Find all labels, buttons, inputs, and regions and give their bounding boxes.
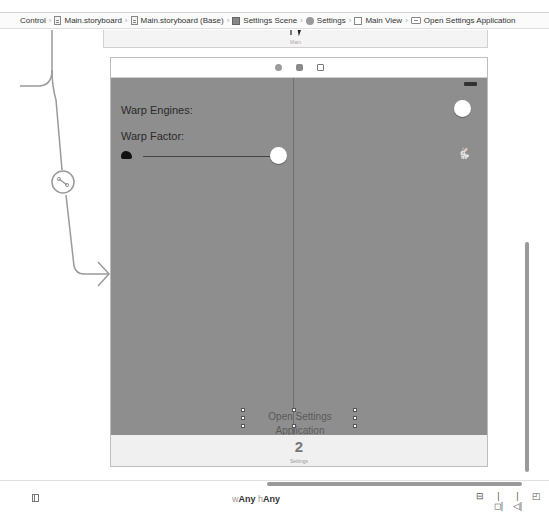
layout-tools: ⊟ |◻| |◁| ◰ <box>474 491 542 501</box>
breadcrumb-item-main-storyboard-base[interactable]: Main.storyboard (Base) <box>131 16 224 25</box>
width-value: Any <box>239 494 256 504</box>
chevron-right-icon: › <box>349 16 352 25</box>
document-outline-toggle-icon[interactable] <box>32 494 39 502</box>
scene-handle <box>290 30 292 35</box>
resolve-issues-icon[interactable]: |◁| <box>512 491 523 501</box>
breadcrumb-label: Main.storyboard <box>64 16 121 25</box>
chevron-right-icon: › <box>125 16 128 25</box>
warp-factor-slider[interactable] <box>143 156 275 157</box>
breadcrumb-item-main-storyboard[interactable]: Main.storyboard <box>54 16 121 25</box>
resizing-behavior-icon[interactable]: ◰ <box>531 491 542 501</box>
scene-dock <box>111 58 487 78</box>
resize-handle[interactable] <box>241 408 245 412</box>
tortoise-icon <box>121 151 132 159</box>
button-icon <box>411 17 421 24</box>
chevron-right-icon: › <box>405 16 408 25</box>
breadcrumb-label: Main View <box>365 16 402 25</box>
tab-bar-item-label: Settings <box>111 458 487 464</box>
first-responder-icon[interactable] <box>296 64 303 71</box>
resize-handle[interactable] <box>353 424 357 428</box>
chevron-right-icon: › <box>227 16 230 25</box>
warp-engines-label[interactable]: Warp Engines: <box>121 104 193 116</box>
breadcrumb-label: Open Settings Application <box>424 16 516 25</box>
size-class-control[interactable]: wAny hAny <box>232 494 280 504</box>
tab-bar-item-icon: 2 <box>111 438 487 455</box>
resize-handle[interactable] <box>292 424 296 428</box>
main-view[interactable]: Warp Engines: Warp Factor: 🐇 Open Settin… <box>111 78 487 435</box>
height-value: Any <box>263 494 280 504</box>
breadcrumb-label: Control <box>20 16 46 25</box>
breadcrumb-label: Main.storyboard (Base) <box>141 16 224 25</box>
view-icon <box>354 17 362 25</box>
vertical-scrollbar[interactable] <box>525 242 529 472</box>
scene-icon <box>232 17 240 25</box>
pin-icon[interactable]: |◻| <box>493 491 504 501</box>
horizontal-scroll-track <box>0 480 549 481</box>
warp-engines-switch[interactable] <box>454 100 471 117</box>
hare-icon: 🐇 <box>457 148 471 159</box>
warp-factor-label[interactable]: Warp Factor: <box>121 130 184 142</box>
open-settings-application-button[interactable]: Open Settings Application <box>244 410 356 424</box>
breadcrumb-item-control[interactable]: Control <box>20 16 46 25</box>
center-guide-line <box>293 78 294 435</box>
view-controller-icon[interactable] <box>275 64 282 71</box>
storyboard-icon <box>54 16 61 25</box>
tab-bar[interactable]: 2 Settings <box>111 435 487 466</box>
scene-label: Main <box>104 39 487 45</box>
breadcrumb-item-settings[interactable]: Settings <box>306 16 346 25</box>
battery-icon <box>464 82 477 86</box>
breadcrumb-item-main-view[interactable]: Main View <box>354 16 402 25</box>
exit-icon[interactable] <box>317 64 324 71</box>
resize-handle[interactable] <box>353 416 357 420</box>
breadcrumb-label: Settings Scene <box>243 16 297 25</box>
canvas-bottom-bar: wAny hAny ⊟ |◻| |◁| ◰ <box>0 486 549 521</box>
breadcrumb: Control › Main.storyboard › Main.storybo… <box>0 12 549 29</box>
breadcrumb-item-settings-scene[interactable]: Settings Scene <box>232 16 297 25</box>
slider-thumb[interactable] <box>270 147 287 164</box>
settings-scene[interactable]: Warp Engines: Warp Factor: 🐇 Open Settin… <box>110 57 488 467</box>
resize-handle[interactable] <box>292 408 296 412</box>
chevron-right-icon: › <box>300 16 303 25</box>
view-controller-icon <box>306 17 314 25</box>
storyboard-editor: Control › Main.storyboard › Main.storybo… <box>0 0 549 521</box>
storyboard-icon <box>131 16 138 25</box>
resize-handle[interactable] <box>241 424 245 428</box>
breadcrumb-label: Settings <box>317 16 346 25</box>
storyboard-canvas[interactable]: Main <box>0 30 549 480</box>
breadcrumb-item-open-settings-application[interactable]: Open Settings Application <box>411 16 516 25</box>
mouse-cursor-icon <box>297 30 303 36</box>
resize-handle[interactable] <box>353 408 357 412</box>
align-icon[interactable]: ⊟ <box>474 491 485 501</box>
main-scene[interactable]: Main <box>103 30 488 48</box>
chevron-right-icon: › <box>49 16 52 25</box>
resize-handle[interactable] <box>241 416 245 420</box>
